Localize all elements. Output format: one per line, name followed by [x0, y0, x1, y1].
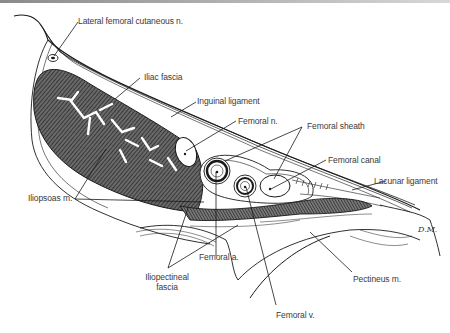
- femoral-artery-shape: [204, 158, 230, 184]
- label-lacunar-ligament: Lacunar ligament: [374, 176, 438, 186]
- label-femoral-v: Femoral v.: [276, 310, 315, 320]
- label-iliopectineal-fascia: Iliopectineal fascia: [142, 272, 192, 292]
- label-iliopsoas-m: Iliopsoas m.: [28, 193, 72, 203]
- label-femoral-canal: Femoral canal: [328, 155, 381, 165]
- label-iliopectineal-line2: fascia: [142, 282, 192, 292]
- label-iliopectineal-line1: Iliopectineal: [142, 272, 192, 282]
- label-femoral-a: Femoral a.: [199, 252, 239, 262]
- label-iliac-fascia: Iliac fascia: [144, 72, 182, 82]
- label-femoral-n: Femoral n.: [238, 116, 278, 126]
- label-inguinal-ligament: Inguinal ligament: [197, 96, 260, 106]
- lateral-femoral-cutaneous-nerve-shape: [48, 55, 58, 62]
- femoral-vein-shape: [234, 175, 256, 197]
- femoral-canal-shape: [260, 175, 290, 197]
- anatomy-figure: D.M. Lateral femoral cutaneous n. Iliac …: [0, 0, 450, 333]
- label-femoral-sheath: Femoral sheath: [307, 121, 365, 131]
- artist-signature: D.M.: [417, 225, 437, 234]
- label-pectineus-m: Pectineus m.: [353, 274, 401, 284]
- label-lateral-femoral-cutaneous-n: Lateral femoral cutaneous n.: [78, 16, 183, 26]
